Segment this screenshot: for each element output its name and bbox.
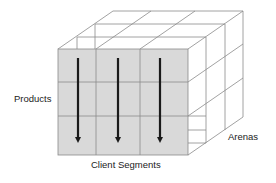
products-axis-label: Products <box>14 93 52 104</box>
client-segments-axis-label: Client Segments <box>91 159 161 170</box>
arenas-axis-label: Arenas <box>228 131 258 142</box>
cube-diagram <box>0 0 276 183</box>
